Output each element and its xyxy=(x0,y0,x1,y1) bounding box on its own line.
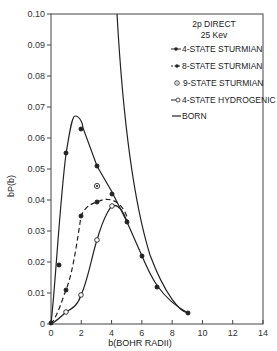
y-tick-label: 0.10 xyxy=(27,9,45,19)
y-tick-label: 0.09 xyxy=(27,40,45,50)
legend-entry: 4-STATE HYDROGENIC xyxy=(182,95,276,105)
sturmian4-point xyxy=(110,192,114,196)
sturmian8-point xyxy=(64,288,68,292)
y-tick-label: 0.03 xyxy=(27,226,45,236)
x-tick-label: 2 xyxy=(79,328,84,338)
legend-entry: 4-STATE STURMIAN xyxy=(182,44,262,54)
sturmian4-point xyxy=(95,164,99,168)
x-axis: 02468101214 xyxy=(48,320,268,338)
legend-entry: BORN xyxy=(182,111,207,121)
y-tick-label: 0.05 xyxy=(27,164,45,174)
x-tick-label: 8 xyxy=(170,328,175,338)
sturmian8-point xyxy=(79,214,83,218)
sturmian4-point xyxy=(140,254,144,258)
hydrogenic-curve xyxy=(51,205,127,324)
y-tick-label: 0.07 xyxy=(27,102,45,112)
legend: 2p DIRECT 25 Kev 4-STATE STURMIAN 8-STAT… xyxy=(171,19,276,121)
x-tick-label: 10 xyxy=(197,328,207,338)
sturmian4-point xyxy=(79,127,83,131)
sturmian4-point xyxy=(64,151,68,155)
x-tick-label: 6 xyxy=(139,328,144,338)
sturmian8-curve xyxy=(51,199,127,324)
x-tick-label: 14 xyxy=(258,328,268,338)
y-axis-label: bP(b) xyxy=(6,175,16,197)
hydrogenic-point xyxy=(64,310,69,315)
legend-entry: 9-STATE STURMIAN xyxy=(183,78,263,88)
origin-point xyxy=(49,321,53,325)
y-tick-label: 0 xyxy=(40,319,45,329)
sturmian9-point-dot xyxy=(96,185,97,186)
open-circle-icon xyxy=(176,98,180,102)
hydrogenic-point xyxy=(95,238,100,243)
y-axis: 00.010.020.030.040.050.060.070.080.090.1… xyxy=(27,9,51,329)
x-axis-label: b(BOHR RADII) xyxy=(108,338,172,348)
hydrogenic-point xyxy=(79,293,84,298)
born-curve xyxy=(117,14,188,313)
y-tick-label: 0.08 xyxy=(27,71,45,81)
y-tick-label: 0.02 xyxy=(27,257,45,267)
y-tick-label: 0.04 xyxy=(27,195,45,205)
sturmian4-point xyxy=(186,311,190,315)
curves xyxy=(51,14,188,324)
hydrogenic-point xyxy=(110,204,115,209)
y-tick-label: 0.01 xyxy=(27,288,45,298)
open-markers xyxy=(64,183,115,314)
dotted-circle-icon-center xyxy=(176,82,177,83)
y-tick-label: 0.06 xyxy=(27,133,45,143)
sturmian4-point xyxy=(155,285,159,289)
sturmian4-point xyxy=(57,263,61,267)
sturmian4-point xyxy=(125,220,129,224)
filled-dot-icon xyxy=(175,64,179,68)
legend-title: 2p DIRECT xyxy=(192,19,235,29)
x-tick-label: 4 xyxy=(109,328,114,338)
x-tick-label: 0 xyxy=(48,328,53,338)
legend-entry: 8-STATE STURMIAN xyxy=(182,61,262,71)
filled-dot-icon xyxy=(174,47,178,51)
legend-subtitle: 25 Kev xyxy=(201,30,228,40)
sturmian8-point xyxy=(95,200,99,204)
x-tick-label: 12 xyxy=(228,328,238,338)
chart: 00.010.020.030.040.050.060.070.080.090.1… xyxy=(0,0,277,351)
